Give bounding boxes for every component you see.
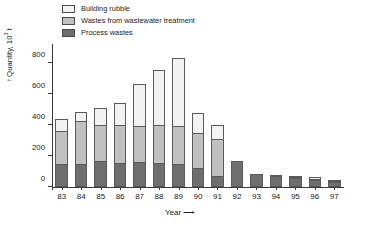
- x-axis-tick: [62, 187, 63, 190]
- bar-91[interactable]: [211, 125, 224, 187]
- x-axis-title: Year ⟶: [165, 208, 194, 217]
- y-axis-title-text: Quantity, 10: [5, 35, 14, 76]
- legend-item-wastewater: Wastes from wastewater treatment: [62, 15, 195, 26]
- x-axis-tick: [217, 187, 218, 190]
- bar-segment-building-rubble: [94, 108, 107, 124]
- x-axis-tick: [295, 187, 296, 190]
- bar-segment-wastes-from-wastewater-treatment: [114, 125, 127, 163]
- x-axis-tick-label: 94: [271, 192, 280, 201]
- bar-segment-wastes-from-wastewater-treatment: [211, 139, 224, 176]
- legend-label-building-rubble: Building rubble: [81, 5, 130, 13]
- bar-segment-process-wastes: [289, 178, 302, 187]
- bar-segment-process-wastes: [250, 174, 263, 187]
- y-axis-tick-label: 400: [32, 113, 45, 121]
- bar-segment-wastes-from-wastewater-treatment: [172, 126, 185, 165]
- bar-95[interactable]: [289, 176, 302, 187]
- bar-87[interactable]: [133, 84, 146, 187]
- y-axis-exponent: 3: [3, 32, 9, 35]
- x-axis-tick: [198, 187, 199, 190]
- x-axis-tick: [237, 187, 238, 190]
- bar-segment-building-rubble: [211, 125, 224, 139]
- bar-97[interactable]: [328, 180, 341, 187]
- bar-segment-wastes-from-wastewater-treatment: [153, 125, 166, 163]
- legend-swatch-wastewater: [62, 17, 75, 25]
- y-axis-tick: [48, 124, 52, 125]
- x-axis-tick-label: 96: [310, 192, 319, 201]
- x-axis-tick-label: 91: [213, 192, 222, 201]
- bar-segment-process-wastes: [211, 176, 224, 187]
- x-axis-tick: [159, 187, 160, 190]
- bar-83[interactable]: [55, 119, 68, 187]
- y-axis-tick-label: 800: [32, 51, 45, 59]
- bar-86[interactable]: [114, 103, 127, 187]
- x-axis-tick: [101, 187, 102, 190]
- x-axis-title-text: Year: [165, 208, 181, 217]
- bar-85[interactable]: [94, 108, 107, 187]
- chart-legend: Building rubble Wastes from wastewater t…: [62, 3, 195, 39]
- x-axis-tick-label: 85: [96, 192, 105, 201]
- legend-item-building-rubble: Building rubble: [62, 3, 195, 14]
- bar-segment-process-wastes: [270, 176, 283, 187]
- y-axis-tick: [48, 186, 52, 187]
- y-axis-tick-label: 0: [41, 175, 45, 183]
- y-axis-tick: [48, 62, 52, 63]
- legend-label-wastewater: Wastes from wastewater treatment: [81, 17, 195, 25]
- bar-segment-process-wastes: [172, 164, 185, 187]
- x-axis-tick: [334, 187, 335, 190]
- x-axis-tick: [81, 187, 82, 190]
- bar-92[interactable]: [231, 161, 244, 187]
- legend-item-process-wastes: Process wastes: [62, 27, 195, 38]
- x-axis-tick: [120, 187, 121, 190]
- bar-segment-process-wastes: [192, 168, 205, 187]
- bar-segment-building-rubble: [75, 112, 88, 121]
- x-axis-tick: [276, 187, 277, 190]
- x-axis-tick: [179, 187, 180, 190]
- bar-segment-process-wastes: [231, 161, 244, 187]
- y-axis-tick-label: 600: [32, 82, 45, 90]
- x-axis-tick-label: 86: [116, 192, 125, 201]
- chart-container: Building rubble Wastes from wastewater t…: [0, 0, 375, 231]
- bar-segment-wastes-from-wastewater-treatment: [133, 126, 146, 163]
- bar-segment-building-rubble: [133, 84, 146, 125]
- legend-swatch-building-rubble: [62, 5, 75, 13]
- x-axis-tick: [140, 187, 141, 190]
- bar-segment-process-wastes: [114, 163, 127, 187]
- bar-segment-process-wastes: [133, 162, 146, 187]
- x-axis-tick: [256, 187, 257, 190]
- bar-93[interactable]: [250, 174, 263, 187]
- y-axis-unit: t: [5, 28, 14, 32]
- bar-90[interactable]: [192, 113, 205, 187]
- bar-segment-building-rubble: [172, 58, 185, 126]
- x-axis-tick-label: 87: [135, 192, 144, 201]
- x-axis-tick-label: 93: [252, 192, 261, 201]
- y-axis-tick: [48, 155, 52, 156]
- x-axis-tick: [315, 187, 316, 190]
- bar-84[interactable]: [75, 112, 88, 187]
- y-axis-tick: [48, 93, 52, 94]
- bar-segment-wastes-from-wastewater-treatment: [94, 125, 107, 161]
- y-axis-title: ↑ Quantity, 103 t: [3, 28, 14, 82]
- bar-88[interactable]: [153, 70, 166, 187]
- bar-segment-process-wastes: [309, 180, 322, 187]
- bar-segment-process-wastes: [153, 163, 166, 187]
- bar-segment-wastes-from-wastewater-treatment: [55, 131, 68, 164]
- x-axis-tick-label: 97: [330, 192, 339, 201]
- bar-segment-building-rubble: [114, 103, 127, 125]
- x-axis-tick-label: 92: [232, 192, 241, 201]
- x-axis-tick-label: 84: [77, 192, 86, 201]
- x-axis-tick-label: 95: [291, 192, 300, 201]
- bar-segment-building-rubble: [192, 113, 205, 133]
- legend-label-process-wastes: Process wastes: [81, 29, 133, 37]
- bar-89[interactable]: [172, 58, 185, 187]
- x-axis-tick-label: 88: [155, 192, 164, 201]
- y-axis-arrow-icon: ↑: [5, 79, 14, 82]
- bar-segment-building-rubble: [55, 119, 68, 131]
- x-axis-tick-label: 83: [57, 192, 66, 201]
- plot-area: 0200400600800838485868788899091929394959…: [52, 47, 344, 187]
- bar-segment-building-rubble: [153, 70, 166, 125]
- bar-96[interactable]: [309, 177, 322, 187]
- bar-94[interactable]: [270, 175, 283, 187]
- bar-segment-wastes-from-wastewater-treatment: [192, 133, 205, 167]
- x-axis-arrow-icon: ⟶: [183, 208, 194, 217]
- bar-segment-wastes-from-wastewater-treatment: [75, 121, 88, 165]
